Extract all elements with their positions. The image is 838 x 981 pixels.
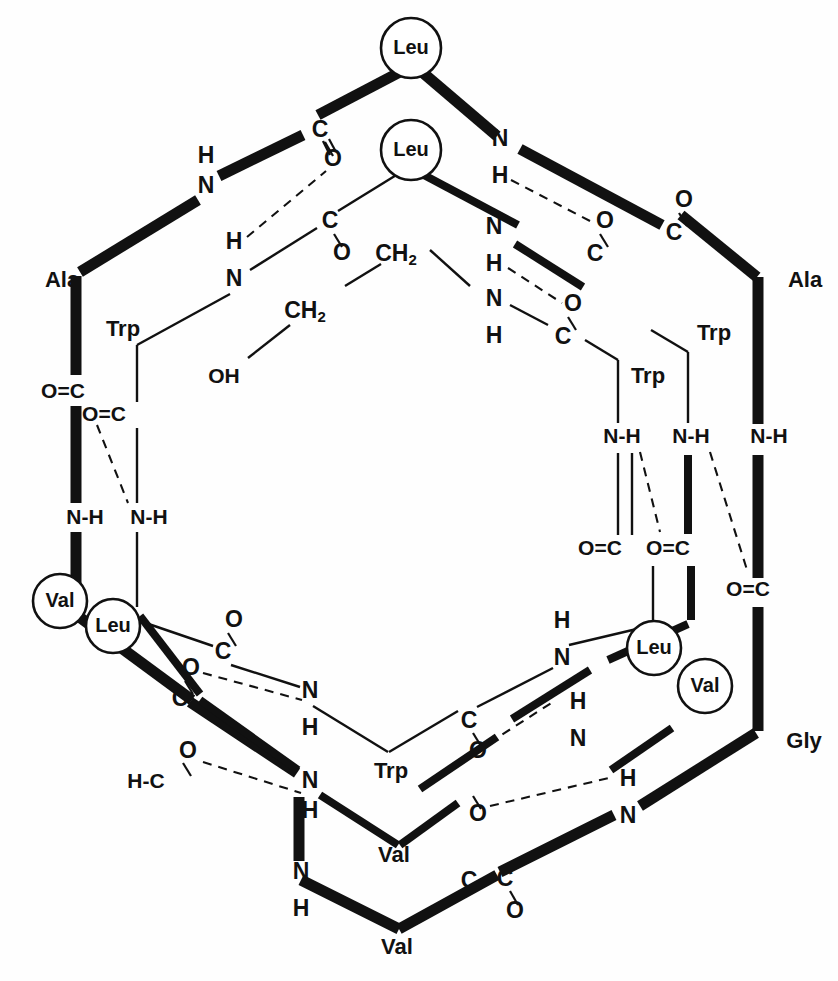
- atom-label-a-n4-right: N: [486, 285, 503, 311]
- atom-label-a-nh-r-in: N-H: [603, 424, 640, 447]
- atom-label-a-o-rb1: O: [469, 737, 487, 763]
- atom-label-a-oc-left-out: O=C: [41, 379, 85, 402]
- residue-label-trp-right-inner: Trp: [631, 363, 665, 388]
- atom-label-a-c-topleft: C: [312, 116, 329, 142]
- atom-label-a-o-lb2: O: [182, 654, 200, 680]
- atom-label-a-o-bottom: O: [506, 897, 524, 923]
- atom-labels: NHCOHNCOCH2CH2OHO=CO=CN-HN-HNHNHNHOCOCOC…: [41, 116, 788, 923]
- atom-label-a-c-rb2: C: [461, 707, 478, 733]
- atom-label-a-c-lb1: C: [215, 638, 232, 664]
- atom-label-a-n-fm: N: [302, 767, 319, 793]
- circled-residue-label-leu-left-lower: Leu: [95, 614, 131, 636]
- atom-label-a-o-farright: O: [675, 186, 693, 212]
- atom-label-a-n-bl: N: [293, 858, 310, 884]
- atom-label-a-h-fm: H: [302, 797, 319, 823]
- atom-label-a-o-topleft: O: [324, 145, 342, 171]
- outer-residue-labels: AlaAlaGlyVal: [45, 267, 823, 959]
- atom-label-a-h2-left: H: [226, 228, 243, 254]
- atom-label-a-hc-fm: H-C: [127, 769, 164, 792]
- double-bond-ticks: [183, 142, 687, 905]
- inner-backbone-heavy: [140, 174, 691, 845]
- atom-label-a-oh: OH: [208, 364, 240, 387]
- hbond-7: [203, 673, 302, 700]
- molecular-structure-svg: LeuLeuLeuLeuValVal AlaAlaGlyVal TrpTrpTr…: [0, 0, 838, 981]
- hbond-9: [489, 700, 556, 743]
- circled-residue-label-leu-right-lower: Leu: [636, 636, 672, 658]
- atom-label-a-nh-left-out: N-H: [66, 505, 103, 528]
- atom-label-a-c2-left: C: [322, 207, 339, 233]
- atom-label-a-n3-right: N: [486, 213, 503, 239]
- atom-label-a-c-right1: C: [587, 240, 604, 266]
- residue-label-gly-right: Gly: [786, 728, 822, 753]
- atom-label-a-h4-right: H: [486, 322, 503, 348]
- atom-label-a-nh-r-out: N-H: [672, 424, 709, 447]
- atom-label-a-n-rb2: N: [570, 725, 587, 751]
- atom-label-a-n2-left: N: [226, 265, 243, 291]
- atom-label-a-o2-left: O: [333, 239, 351, 265]
- atom-label-a-c-right2: C: [555, 323, 572, 349]
- inner-residue-labels: TrpTrpTrpTrpVal: [106, 316, 731, 867]
- circled-residue-label-leu-top: Leu: [393, 36, 429, 58]
- atom-label-a-o-rb2: O: [469, 800, 487, 826]
- ethanolamine-tail: [248, 250, 470, 358]
- atom-label-a-c-farright: C: [666, 219, 683, 245]
- residue-label-trp-right-outer: Trp: [697, 320, 731, 345]
- atom-label-a-h-lb: H: [302, 714, 319, 740]
- atom-label-a-oc-r-far: O=C: [726, 577, 770, 600]
- outer-backbone: [76, 72, 758, 929]
- atom-label-a-nh-left-in: N-H: [130, 505, 167, 528]
- atom-label-a-c-rb1: C: [461, 867, 478, 893]
- residue-label-val-bottom: Val: [381, 934, 413, 959]
- residue-label-trp-bottom: Trp: [374, 758, 408, 783]
- atom-label-a-n-lb: N: [302, 677, 319, 703]
- hbond-6: [710, 452, 748, 573]
- hbond-5: [640, 452, 660, 532]
- residue-label-val-inner-bottom: Val: [378, 842, 410, 867]
- residue-label-trp-left: Trp: [106, 316, 140, 341]
- atom-label-a-h-bl: H: [293, 895, 310, 921]
- atom-label-a-h-rb3: H: [620, 765, 637, 791]
- circled-residue-label-leu-upper-inner: Leu: [393, 138, 429, 160]
- atom-label-a-ch2-lower: CH2: [284, 297, 326, 325]
- circled-residue-label-val-right: Val: [691, 674, 720, 696]
- atom-label-a-n-rb1: N: [554, 644, 571, 670]
- atom-label-a-o-right1: O: [596, 207, 614, 233]
- hbond-10: [490, 777, 613, 806]
- atom-label-a-n-rb3: N: [620, 802, 637, 828]
- circled-residue-label-val-left: Val: [46, 589, 75, 611]
- atom-label-a-o-lb1: O: [225, 606, 243, 632]
- atom-label-a-nh-r-far: N-H: [750, 424, 787, 447]
- atom-label-a-n-topright: N: [492, 125, 509, 151]
- hbond-1: [247, 171, 326, 237]
- atom-label-a-h-rb2: H: [570, 688, 587, 714]
- atom-label-a-c-lb2: C: [172, 685, 189, 711]
- atom-label-a-h-topleft: H: [198, 142, 215, 168]
- residue-label-ala-right: Ala: [788, 267, 823, 292]
- atom-label-a-n-topleft: N: [198, 172, 215, 198]
- figure-canvas: LeuLeuLeuLeuValVal AlaAlaGlyVal TrpTrpTr…: [0, 0, 838, 981]
- hbond-4: [97, 425, 128, 503]
- atom-label-a-oc-r-in: O=C: [578, 536, 622, 559]
- atom-label-a-c-bottom: C: [497, 865, 514, 891]
- atom-label-a-oc-left-in: O=C: [82, 402, 126, 425]
- atom-label-a-oc-r-out: O=C: [646, 536, 690, 559]
- atom-label-a-o-right2: O: [564, 290, 582, 316]
- atom-label-a-ch2-upper: CH2: [375, 240, 417, 268]
- atom-label-a-h-topright: H: [492, 162, 509, 188]
- atom-label-a-h-rb1: H: [554, 607, 571, 633]
- atom-label-a-h3-right: H: [486, 250, 503, 276]
- residue-label-ala-left: Ala: [45, 267, 80, 292]
- atom-label-a-o-fm: O: [179, 737, 197, 763]
